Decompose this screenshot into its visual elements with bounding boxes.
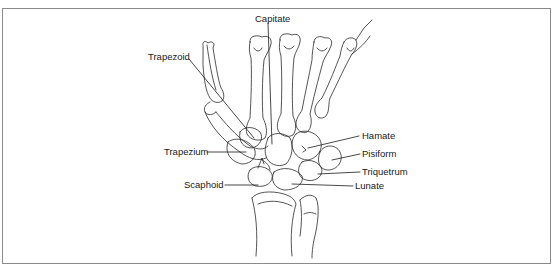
label-lunate: Lunate: [355, 181, 384, 191]
ulna-bone: [300, 195, 318, 258]
leader-lines: [189, 23, 360, 186]
index-metacarpal: [246, 36, 271, 140]
label-scaphoid: Scaphoid: [184, 180, 224, 190]
little-metacarpal: [315, 38, 357, 118]
thumb-bones: [203, 42, 268, 160]
label-triquetrum: Triquetrum: [362, 167, 408, 177]
label-hamate: Hamate: [362, 131, 395, 141]
radius-bone: [252, 192, 296, 256]
carpal-bones: [227, 128, 341, 191]
label-capitate: Capitate: [255, 14, 290, 24]
hand-bones-illustration: [0, 0, 554, 274]
label-trapezoid: Trapezoid: [148, 52, 190, 62]
label-trapezium: Trapezium: [164, 147, 209, 157]
label-pisiform: Pisiform: [362, 149, 396, 159]
ring-metacarpal: [296, 37, 332, 133]
